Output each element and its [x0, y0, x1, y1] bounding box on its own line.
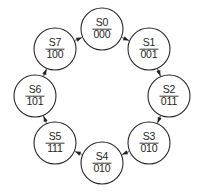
state-diagram: S0000S1001S2011S3010S4010S5111S6101S7100 — [0, 0, 204, 192]
state-node-label: S7 — [49, 36, 62, 48]
state-diagram-canvas: S0000S1001S2011S3010S4010S5111S6101S7100 — [0, 0, 204, 192]
edge-s7-to-s0 — [75, 38, 82, 42]
state-node-s7[interactable]: S7100 — [34, 28, 76, 70]
state-node-code: 010 — [140, 142, 157, 154]
arrow-head-icon — [122, 150, 128, 154]
edge-s4-to-s5 — [75, 152, 82, 156]
arrow-head-icon — [156, 70, 160, 76]
arrow-head-icon — [158, 117, 162, 123]
state-node-s1[interactable]: S1001 — [128, 28, 170, 70]
edge-s2-to-s3 — [158, 116, 162, 123]
edge-s1-to-s2 — [156, 69, 160, 76]
state-node-code: 001 — [140, 48, 157, 60]
state-node-label: S5 — [49, 130, 62, 142]
state-node-code: 010 — [93, 162, 110, 174]
state-node-label: S3 — [143, 130, 156, 142]
arrow-head-icon — [42, 69, 46, 75]
edge-s6-to-s7 — [42, 69, 46, 76]
state-node-label: S1 — [143, 36, 156, 48]
state-node-s2[interactable]: S2011 — [148, 75, 190, 117]
state-node-code: 000 — [93, 28, 110, 40]
state-node-label: S2 — [163, 83, 176, 95]
state-node-code: 011 — [161, 95, 178, 107]
arrow-head-icon — [123, 36, 129, 40]
arrow-head-icon — [75, 152, 81, 156]
edge-s5-to-s6 — [44, 116, 48, 123]
state-node-code: 111 — [47, 142, 63, 154]
edge-s3-to-s4 — [122, 150, 129, 154]
state-node-label: S6 — [29, 83, 42, 95]
state-node-s3[interactable]: S3010 — [128, 122, 170, 164]
state-node-label: S0 — [96, 16, 109, 28]
edge-s0-to-s1 — [122, 36, 129, 40]
arrow-head-icon — [44, 116, 48, 122]
state-node-s5[interactable]: S5111 — [34, 122, 76, 164]
arrow-head-icon — [76, 38, 82, 42]
state-node-label: S4 — [96, 150, 109, 162]
state-node-s6[interactable]: S6101 — [14, 75, 56, 117]
state-node-s0[interactable]: S0000 — [81, 8, 123, 50]
nodes-layer: S0000S1001S2011S3010S4010S5111S6101S7100 — [14, 8, 190, 184]
state-node-code: 101 — [26, 95, 43, 107]
state-node-code: 100 — [46, 48, 63, 60]
state-node-s4[interactable]: S4010 — [81, 142, 123, 184]
